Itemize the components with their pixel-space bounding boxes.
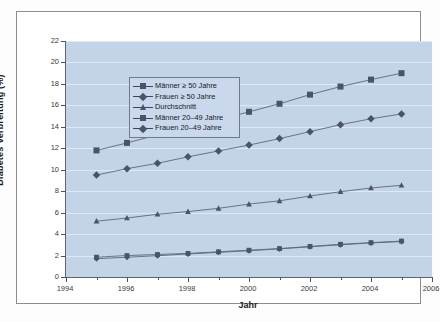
data-point-diamond: [337, 121, 345, 129]
x-axis-minor-tick: [158, 277, 159, 280]
x-axis-minor-tick: [341, 277, 342, 280]
x-axis-minor-tick: [219, 277, 220, 280]
data-point-diamond: [215, 147, 223, 155]
series-5: [94, 239, 405, 262]
data-point-square: [368, 77, 374, 83]
data-point-square: [277, 101, 283, 107]
x-axis-tick: [432, 277, 433, 282]
legend-label: Frauen 20–49 Jahre: [153, 123, 222, 134]
data-point-diamond: [367, 115, 375, 123]
data-point-square: [399, 70, 405, 76]
legend-label: Männer ≥ 50 Jahre: [153, 81, 217, 92]
legend-item-1: Männer ≥ 50 Jahre: [133, 81, 235, 92]
legend-marker-diamond-icon: [133, 124, 153, 134]
x-axis-tick-label: 1996: [106, 285, 146, 293]
x-axis-tick-label: 2006: [411, 285, 444, 293]
legend-item-5: Frauen 20–49 Jahre: [133, 123, 235, 134]
legend-marker-square-icon: [133, 113, 153, 123]
x-axis-minor-tick: [97, 277, 98, 280]
x-axis-tick-label: 2002: [289, 285, 329, 293]
y-axis-tick-label: 12: [17, 144, 59, 152]
y-axis-tick-label: 16: [17, 101, 59, 109]
x-axis-tick: [310, 277, 311, 282]
x-axis-tick: [188, 277, 189, 282]
legend-marker-square-icon: [133, 81, 153, 91]
x-axis-tick: [371, 277, 372, 282]
x-axis-minor-tick: [280, 277, 281, 280]
data-point-square: [307, 92, 313, 98]
data-point-diamond: [93, 171, 101, 179]
data-point-square: [124, 140, 130, 146]
data-point-square: [338, 84, 344, 90]
figure-frame: Diabetes Verbreitung (%) Männer ≥ 50 Jah…: [16, 11, 421, 304]
data-point-diamond: [306, 128, 314, 135]
y-axis-tick-label: 0: [17, 273, 59, 281]
y-axis-tick-label: 18: [17, 80, 59, 88]
series-3: [94, 182, 405, 223]
x-axis-minor-tick: [402, 277, 403, 280]
x-axis-tick-label: 2004: [350, 285, 390, 293]
data-point-square: [246, 109, 252, 115]
legend-label: Durchschnitt: [153, 102, 196, 113]
data-point-triangle: [399, 182, 405, 187]
x-axis-tick-label: 2000: [228, 285, 268, 293]
x-axis-tick: [127, 277, 128, 282]
legend: Männer ≥ 50 JahreFrauen ≥ 50 JahreDurchs…: [129, 77, 240, 138]
x-axis-tick-label: 1994: [45, 285, 85, 293]
x-axis-tick: [249, 277, 250, 282]
legend-item-4: Männer 20–49 Jahre: [133, 113, 235, 124]
data-point-diamond: [184, 153, 192, 161]
legend-label: Männer 20–49 Jahre: [153, 113, 223, 124]
data-point-diamond: [245, 141, 253, 149]
data-point-square: [94, 147, 100, 153]
y-axis-tick-label: 4: [17, 230, 59, 238]
y-axis-tick-label: 22: [17, 37, 59, 45]
y-axis-tick-label: 10: [17, 166, 59, 174]
y-axis-title: Diabetes Verbreitung (%): [0, 12, 9, 248]
y-axis-tick-label: 20: [17, 58, 59, 66]
data-series-layer: [66, 41, 432, 277]
data-point-diamond: [276, 135, 284, 143]
data-point-diamond: [123, 165, 131, 173]
y-axis-tick-label: 8: [17, 187, 59, 195]
legend-item-3: Durchschnitt: [133, 102, 235, 113]
x-axis-tick: [66, 277, 67, 282]
data-point-diamond: [154, 160, 162, 168]
y-axis-tick-label: 6: [17, 209, 59, 217]
legend-label: Frauen ≥ 50 Jahre: [153, 92, 215, 103]
y-axis-tick-label: 14: [17, 123, 59, 131]
legend-item-2: Frauen ≥ 50 Jahre: [133, 92, 235, 103]
plot-area: Männer ≥ 50 JahreFrauen ≥ 50 JahreDurchs…: [65, 41, 432, 278]
legend-marker-triangle-icon: [133, 102, 153, 112]
y-axis-tick-label: 2: [17, 252, 59, 260]
data-point-diamond: [398, 110, 406, 118]
x-axis-tick-label: 1998: [167, 285, 207, 293]
x-axis-title: Jahr: [65, 300, 431, 310]
legend-marker-diamond-icon: [133, 92, 153, 102]
